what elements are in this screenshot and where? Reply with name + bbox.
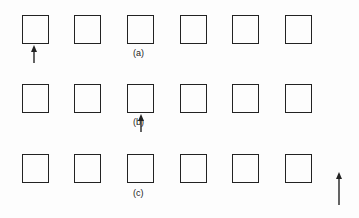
up-arrow-icon bbox=[334, 172, 344, 207]
label-a: (a) bbox=[133, 48, 144, 58]
up-arrow-icon bbox=[29, 45, 39, 65]
label-c: (c) bbox=[133, 188, 144, 198]
square bbox=[180, 154, 207, 183]
square bbox=[22, 15, 49, 44]
label-b: (b) bbox=[133, 117, 144, 127]
square bbox=[285, 154, 312, 183]
square bbox=[232, 84, 259, 113]
square bbox=[285, 84, 312, 113]
square bbox=[180, 84, 207, 113]
square bbox=[127, 84, 154, 113]
square bbox=[232, 15, 259, 44]
square bbox=[127, 154, 154, 183]
square bbox=[22, 84, 49, 113]
square bbox=[180, 15, 207, 44]
square bbox=[74, 84, 101, 113]
square bbox=[127, 15, 154, 44]
square bbox=[22, 154, 49, 183]
square bbox=[285, 15, 312, 44]
square bbox=[74, 15, 101, 44]
square bbox=[74, 154, 101, 183]
square bbox=[232, 154, 259, 183]
